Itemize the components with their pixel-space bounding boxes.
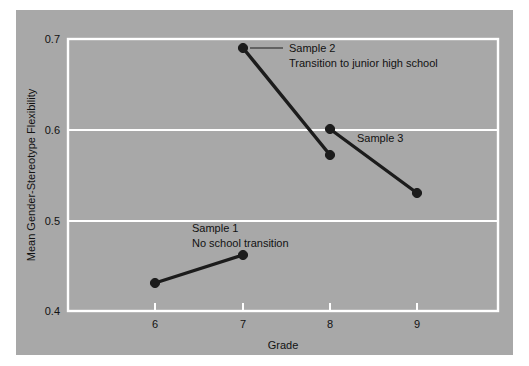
x-tick-label-group: 6 7 8 9 <box>152 318 420 330</box>
plot-frame <box>68 39 498 311</box>
series-sample-1 <box>150 250 247 287</box>
annotation-sample-3-line1: Sample 3 <box>357 132 403 144</box>
chart-canvas: 0.7 0.6 0.5 0.4 6 7 8 9 Grade Mean Gende… <box>0 0 529 366</box>
annotation-sample-1-line2: No school transition <box>192 237 289 249</box>
annotation-sample-3: Sample 3 <box>357 132 403 144</box>
x-tick-label-6: 6 <box>152 318 158 330</box>
y-tick-label-0.4: 0.4 <box>45 305 60 317</box>
y-tick-label-0.5: 0.5 <box>45 215 60 227</box>
figure-root: 0.7 0.6 0.5 0.4 6 7 8 9 Grade Mean Gende… <box>0 0 529 366</box>
series-sample-1-line <box>155 255 243 283</box>
data-point-sample-1-grade-6 <box>150 278 159 287</box>
data-point-sample-2-grade-8 <box>325 150 334 159</box>
x-tick-label-9: 9 <box>414 318 420 330</box>
gridline-group <box>68 130 498 221</box>
y-tick-label-0.7: 0.7 <box>45 33 60 45</box>
data-point-sample-3-grade-9 <box>412 188 421 197</box>
x-tickmark-group <box>155 303 417 311</box>
x-tick-label-7: 7 <box>240 318 246 330</box>
x-tick-label-8: 8 <box>327 318 333 330</box>
y-tick-label-group: 0.7 0.6 0.5 0.4 <box>45 33 60 317</box>
annotation-sample-1: Sample 1 No school transition <box>192 222 289 249</box>
annotation-sample-2-line1: Sample 2 <box>289 42 335 54</box>
annotation-sample-2: Sample 2 Transition to junior high schoo… <box>250 42 438 69</box>
data-point-sample-1-grade-7 <box>238 250 247 259</box>
y-axis-title: Mean Gender-Stereotype Flexibility <box>25 88 37 261</box>
x-axis-title: Grade <box>268 339 299 351</box>
annotation-sample-2-line2: Transition to junior high school <box>289 57 438 69</box>
annotation-sample-1-line1: Sample 1 <box>192 222 238 234</box>
y-tick-label-0.6: 0.6 <box>45 124 60 136</box>
data-point-sample-2-grade-7 <box>238 43 247 52</box>
data-point-sample-3-grade-8 <box>325 124 334 133</box>
